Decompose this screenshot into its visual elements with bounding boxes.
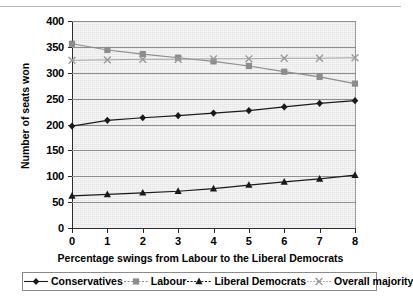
legend-label: Overall majority bbox=[334, 276, 413, 287]
chart-legend: ConservativesLabourLiberal DemocratsOver… bbox=[22, 272, 377, 291]
diamond-marker-icon bbox=[23, 276, 49, 287]
diamond-marker-icon bbox=[316, 100, 323, 107]
square-marker-icon bbox=[69, 41, 75, 47]
square-marker-icon bbox=[133, 278, 139, 284]
triangle-marker-icon bbox=[186, 276, 212, 287]
triangle-marker-icon bbox=[351, 171, 358, 178]
diamond-marker-icon bbox=[352, 97, 359, 104]
legend-label: Conservatives bbox=[51, 276, 123, 287]
square-marker-icon bbox=[123, 276, 149, 287]
diamond-marker-icon bbox=[104, 117, 111, 124]
legend-item[interactable]: Labour bbox=[123, 276, 187, 287]
diamond-marker-icon bbox=[69, 122, 76, 129]
diamond-marker-icon bbox=[210, 110, 217, 117]
square-marker-icon bbox=[317, 74, 323, 80]
series-liberal-democrats bbox=[68, 171, 358, 198]
legend-item[interactable]: Conservatives bbox=[23, 276, 123, 287]
legend-label: Liberal Democrats bbox=[214, 276, 306, 287]
legend-label: Labour bbox=[151, 276, 187, 287]
cross-marker-icon bbox=[306, 276, 332, 287]
square-marker-icon bbox=[352, 81, 358, 87]
square-marker-icon bbox=[246, 63, 252, 69]
series-labour bbox=[69, 41, 358, 87]
legend-item[interactable]: Liberal Democrats bbox=[186, 276, 306, 287]
legend-item[interactable]: Overall majority bbox=[306, 276, 413, 287]
diamond-marker-icon bbox=[33, 278, 40, 285]
diamond-marker-icon bbox=[281, 103, 288, 110]
diamond-marker-icon bbox=[175, 112, 182, 119]
series-conservatives bbox=[69, 97, 359, 130]
square-marker-icon bbox=[281, 69, 287, 75]
square-marker-icon bbox=[104, 47, 110, 53]
diamond-marker-icon bbox=[139, 114, 146, 121]
diamond-marker-icon bbox=[246, 107, 253, 114]
